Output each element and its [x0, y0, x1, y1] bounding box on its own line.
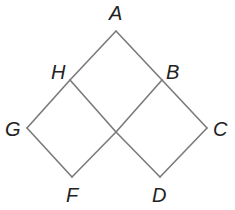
segment-o-h	[70, 80, 116, 132]
segment-c-d	[160, 128, 207, 177]
segment-a-b	[116, 31, 162, 80]
vertex-label-f: F	[66, 184, 80, 206]
vertex-label-c: C	[213, 118, 228, 140]
vertex-label-d: D	[152, 184, 166, 206]
segment-o-b	[116, 80, 162, 132]
geometry-diagram: AHBGCFD	[0, 0, 235, 210]
segment-a-h	[70, 31, 116, 80]
diagram-edges	[27, 31, 207, 177]
vertex-label-b: B	[166, 61, 179, 83]
segment-b-c	[162, 80, 207, 128]
segment-h-g	[27, 80, 70, 128]
vertex-label-a: A	[108, 2, 122, 24]
segment-d-o	[116, 132, 160, 177]
vertex-label-g: G	[5, 118, 21, 140]
segment-g-f	[27, 128, 72, 177]
vertex-label-h: H	[51, 61, 66, 83]
segment-f-o	[72, 132, 116, 177]
